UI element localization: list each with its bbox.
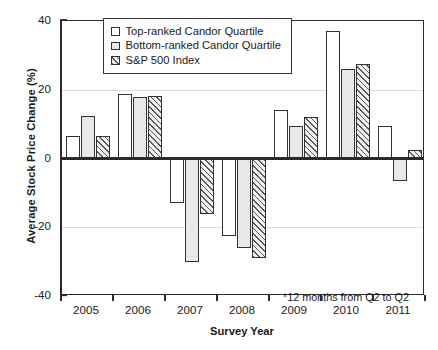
bar-2009-series-3 [304,117,318,158]
bar-2006-series-3 [148,96,162,159]
bar-2007-series-1 [170,159,184,204]
bar-2010-series-3 [356,64,370,159]
legend-label-top-ranked: Top-ranked Candor Quartile [126,26,264,37]
bar-2005-series-1 [66,136,80,158]
x-axis-tick [424,295,426,301]
bar-2010-series-1 [326,31,340,158]
chart-footnote: *12 months from Q2 to Q2 [283,291,409,303]
zero-baseline [62,157,423,159]
bar-2011-series-2 [393,159,407,181]
x-axis-tick [320,295,322,301]
legend-swatch-top-ranked [111,27,120,36]
bar-2005-series-2 [81,116,95,159]
x-axis-title: Survey Year [60,325,424,337]
x-axis-tick [216,295,218,301]
y-axis-tick-label: 20 [5,83,51,95]
x-axis-tick [164,295,166,301]
legend-swatch-sp500 [111,56,120,65]
bar-2006-series-2 [133,97,147,159]
y-axis-tick-label: 0 [5,152,51,164]
legend-item-top-ranked: Top-ranked Candor Quartile [111,24,281,39]
legend-label-bottom-ranked: Bottom-ranked Candor Quartile [126,40,281,51]
bar-2009-series-1 [274,110,288,158]
bar-2008-series-3 [252,159,266,259]
x-axis-tick [60,295,62,301]
legend-item-sp500: S&P 500 Index [111,53,281,68]
bar-2011-series-1 [378,126,392,159]
bar-2008-series-1 [222,159,236,236]
bar-2009-series-2 [289,126,303,159]
legend-swatch-bottom-ranked [111,42,120,51]
bar-2010-series-2 [341,69,355,158]
bar-2007-series-2 [185,159,199,262]
legend-label-sp500: S&P 500 Index [126,55,200,66]
chart-legend: Top-ranked Candor Quartile Bottom-ranked… [103,18,292,74]
bar-2005-series-3 [96,136,110,158]
y-axis-tick-label: -40 [5,289,51,301]
y-axis-tick-label: 40 [5,14,51,26]
legend-item-bottom-ranked: Bottom-ranked Candor Quartile [111,39,281,54]
bar-2007-series-3 [200,159,214,214]
x-axis-tick [112,295,114,301]
x-axis-tick [372,295,374,301]
bar-2008-series-2 [237,159,251,248]
y-axis-tick-label: -20 [5,220,51,232]
x-axis-tick-label-2011: 2011 [363,303,433,316]
bar-2006-series-1 [118,94,132,159]
stock-price-change-bar-chart: Average Stock Price Change (%) 40200-20-… [0,0,438,350]
x-axis-tick [268,295,270,301]
